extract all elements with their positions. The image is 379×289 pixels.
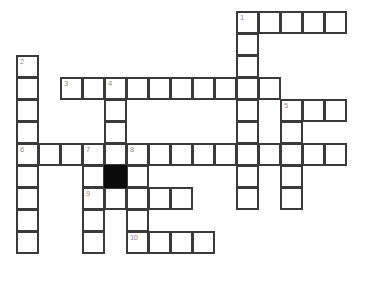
crossword-cell[interactable] xyxy=(104,187,127,210)
crossword-cell[interactable] xyxy=(170,231,193,254)
crossword-cell[interactable] xyxy=(280,121,303,144)
cell-number: 8 xyxy=(130,145,134,154)
crossword-cell[interactable] xyxy=(236,165,259,188)
crossword-cell[interactable] xyxy=(38,143,61,166)
crossword-cell[interactable] xyxy=(16,165,39,188)
crossword-cell[interactable] xyxy=(324,11,347,34)
crossword-cell[interactable]: 2 xyxy=(16,55,39,78)
crossword-cell[interactable] xyxy=(236,99,259,122)
crossword-cell[interactable] xyxy=(148,231,171,254)
crossword-cell[interactable] xyxy=(192,143,215,166)
crossword-cell[interactable] xyxy=(104,143,127,166)
crossword-cell[interactable] xyxy=(60,143,83,166)
crossword-cell[interactable]: 1 xyxy=(236,11,259,34)
crossword-cell[interactable] xyxy=(302,11,325,34)
crossword-cell[interactable]: 10 xyxy=(126,231,149,254)
crossword-blocked-cell xyxy=(104,165,127,188)
crossword-cell[interactable] xyxy=(324,99,347,122)
crossword-cell[interactable] xyxy=(258,143,281,166)
crossword-cell[interactable] xyxy=(236,33,259,56)
crossword-cell[interactable] xyxy=(16,77,39,100)
crossword-cell[interactable]: 9 xyxy=(82,187,105,210)
crossword-cell[interactable] xyxy=(324,143,347,166)
crossword-cell[interactable] xyxy=(126,165,149,188)
crossword-cell[interactable] xyxy=(280,11,303,34)
crossword-cell[interactable] xyxy=(214,143,237,166)
crossword-cell[interactable] xyxy=(258,11,281,34)
crossword-cell[interactable] xyxy=(126,187,149,210)
crossword-cell[interactable] xyxy=(170,77,193,100)
crossword-cell[interactable] xyxy=(126,77,149,100)
crossword-cell[interactable] xyxy=(148,77,171,100)
crossword-cell[interactable] xyxy=(16,99,39,122)
crossword-cell[interactable] xyxy=(280,187,303,210)
crossword-cell[interactable] xyxy=(236,55,259,78)
cell-number: 9 xyxy=(86,189,90,198)
cell-number: 2 xyxy=(20,57,24,66)
crossword-cell[interactable] xyxy=(126,209,149,232)
cell-number: 5 xyxy=(284,101,288,110)
crossword-grid[interactable]: 12345678910 xyxy=(0,0,379,289)
crossword-cell[interactable] xyxy=(236,187,259,210)
crossword-cell[interactable] xyxy=(82,231,105,254)
crossword-cell[interactable] xyxy=(82,209,105,232)
crossword-cell[interactable] xyxy=(236,77,259,100)
crossword-cell[interactable] xyxy=(148,143,171,166)
crossword-cell[interactable] xyxy=(170,187,193,210)
cell-number: 6 xyxy=(20,145,24,154)
crossword-cell[interactable] xyxy=(258,77,281,100)
crossword-cell[interactable] xyxy=(236,143,259,166)
crossword-cell[interactable] xyxy=(148,187,171,210)
crossword-cell[interactable] xyxy=(192,77,215,100)
crossword-cell[interactable] xyxy=(214,77,237,100)
crossword-cell[interactable] xyxy=(170,143,193,166)
cell-number: 1 xyxy=(240,13,244,22)
crossword-cell[interactable] xyxy=(16,231,39,254)
cell-number: 10 xyxy=(130,233,138,242)
crossword-cell[interactable] xyxy=(104,99,127,122)
crossword-cell[interactable] xyxy=(302,99,325,122)
crossword-cell[interactable] xyxy=(280,165,303,188)
crossword-cell[interactable] xyxy=(192,231,215,254)
crossword-cell[interactable]: 5 xyxy=(280,99,303,122)
crossword-cell[interactable]: 3 xyxy=(60,77,83,100)
crossword-cell[interactable]: 6 xyxy=(16,143,39,166)
crossword-cell[interactable] xyxy=(82,77,105,100)
crossword-cell[interactable]: 4 xyxy=(104,77,127,100)
cell-number: 3 xyxy=(64,79,68,88)
crossword-cell[interactable] xyxy=(82,165,105,188)
crossword-cell[interactable] xyxy=(302,143,325,166)
cell-number: 7 xyxy=(86,145,90,154)
crossword-cell[interactable] xyxy=(16,187,39,210)
crossword-cell[interactable] xyxy=(280,143,303,166)
crossword-cell[interactable] xyxy=(236,121,259,144)
crossword-cell[interactable] xyxy=(104,121,127,144)
crossword-cell[interactable] xyxy=(16,209,39,232)
crossword-cell[interactable] xyxy=(16,121,39,144)
crossword-cell[interactable]: 7 xyxy=(82,143,105,166)
crossword-cell[interactable]: 8 xyxy=(126,143,149,166)
cell-number: 4 xyxy=(108,79,112,88)
